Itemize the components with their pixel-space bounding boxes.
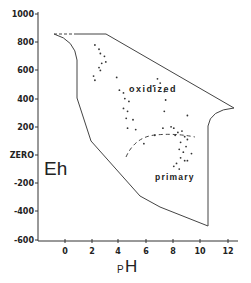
data-point <box>182 151 184 153</box>
data-point <box>105 61 107 63</box>
data-point <box>187 115 189 117</box>
x-tick-label: 6 <box>143 247 149 256</box>
oxidized-label: oxidized <box>129 84 177 94</box>
data-point <box>163 110 165 112</box>
data-point <box>178 148 180 150</box>
data-point <box>187 139 189 141</box>
data-point <box>98 67 100 69</box>
data-point <box>123 92 125 94</box>
ph-axis-label-h: H <box>125 257 137 276</box>
data-point <box>93 75 95 77</box>
data-point <box>99 53 101 55</box>
data-point <box>187 160 189 162</box>
ph-axis-label-p: P <box>117 264 124 275</box>
data-point <box>104 55 106 57</box>
data-point <box>132 119 134 121</box>
y-tick-label: 200 <box>17 123 34 132</box>
data-point <box>180 141 182 143</box>
y-tick-label: -200 <box>14 179 34 188</box>
data-point <box>191 153 193 155</box>
data-point <box>157 78 159 80</box>
data-point <box>173 127 175 129</box>
data-point <box>135 129 137 131</box>
boundary-top <box>75 34 234 108</box>
data-point <box>181 130 183 132</box>
data-point <box>124 98 126 100</box>
x-tick-label: 10 <box>194 247 206 256</box>
y-tick-label: 600 <box>17 66 34 75</box>
scatter-points <box>93 44 193 170</box>
y-tick-label: -600 <box>14 236 34 245</box>
data-point <box>119 89 121 91</box>
y-tick-label: 800 <box>17 38 34 47</box>
x-ticks: 024681012 <box>62 239 233 256</box>
data-point <box>127 127 129 129</box>
data-point <box>123 108 125 110</box>
data-point <box>154 134 156 136</box>
data-point <box>178 168 180 170</box>
data-point <box>185 146 187 148</box>
data-point <box>165 99 167 101</box>
x-tick-label: 0 <box>62 247 68 256</box>
data-point <box>170 126 172 128</box>
x-tick-label: 8 <box>170 247 176 256</box>
oxidized-primary-divider <box>126 134 195 157</box>
data-point <box>125 117 127 119</box>
y-tick-label: -400 <box>14 207 34 216</box>
x-tick-label: 4 <box>115 247 121 256</box>
data-point <box>180 157 182 159</box>
data-point <box>94 44 96 46</box>
data-point <box>98 48 100 50</box>
data-point <box>99 70 101 72</box>
data-point <box>116 77 118 79</box>
data-point <box>143 143 145 145</box>
data-point <box>184 160 186 162</box>
x-tick-label: 2 <box>89 247 95 256</box>
y-tick-label: ZERO <box>10 151 34 160</box>
data-point <box>174 134 176 136</box>
data-point <box>162 127 164 129</box>
data-point <box>184 136 186 138</box>
data-point <box>128 101 130 103</box>
data-point <box>94 79 96 81</box>
primary-label: primary <box>155 172 195 182</box>
eh-ph-chart: 1000800600400200ZERO-200-400-600 0246810… <box>0 0 251 283</box>
x-tick-label: 12 <box>222 247 233 256</box>
y-ticks: 1000800600400200ZERO-200-400-600 <box>10 10 38 245</box>
data-point <box>127 110 129 112</box>
y-tick-label: 1000 <box>12 10 35 19</box>
boundary-outline <box>54 34 234 226</box>
eh-axis-label: Eh <box>44 158 67 179</box>
data-point <box>176 163 178 165</box>
data-point <box>173 165 175 167</box>
data-point <box>177 132 179 134</box>
y-tick-label: 400 <box>17 95 34 104</box>
data-point <box>101 62 103 64</box>
